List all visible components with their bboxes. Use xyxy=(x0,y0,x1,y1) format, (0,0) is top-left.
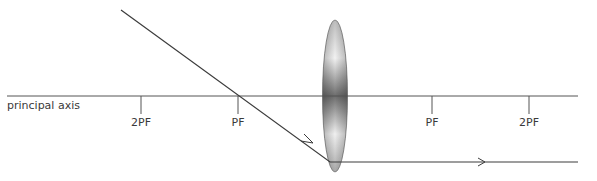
tick-label-pf-left: PF xyxy=(232,116,245,129)
tick-label-pf-right: PF xyxy=(426,116,439,129)
principal-axis-label: principal axis xyxy=(7,99,80,112)
tick-label-2pf-left: 2PF xyxy=(131,116,151,129)
light-ray xyxy=(121,10,578,166)
tick-label-2pf-right: 2PF xyxy=(519,116,539,129)
lens-ray-diagram: principal axis 2PF PF PF 2PF xyxy=(0,0,597,181)
ray-arrow-icon xyxy=(301,134,313,143)
